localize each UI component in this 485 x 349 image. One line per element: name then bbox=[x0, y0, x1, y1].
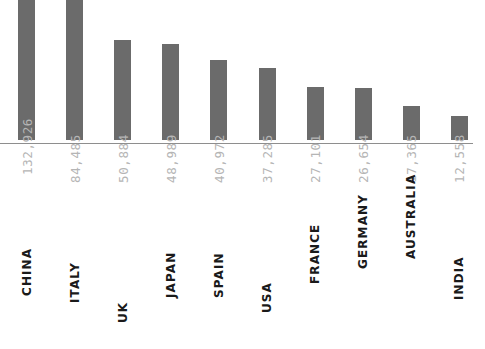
label-column-france: 27,101 FRANCE bbox=[307, 145, 324, 349]
category-label: ITALY bbox=[68, 262, 82, 303]
bar-italy bbox=[66, 0, 83, 140]
bar-uk bbox=[114, 40, 131, 140]
category-label: JAPAN bbox=[164, 251, 178, 297]
bar-japan bbox=[162, 44, 179, 140]
value-label: 12,558 bbox=[452, 134, 467, 183]
label-column-italy: 84,485 ITALY bbox=[66, 145, 83, 349]
bar-germany bbox=[355, 88, 372, 140]
bar-spain bbox=[210, 60, 227, 140]
label-column-china: 132,926 CHINA bbox=[18, 145, 35, 349]
value-label: 40,972 bbox=[211, 134, 226, 183]
value-label: 27,101 bbox=[308, 134, 323, 183]
category-label: UK bbox=[116, 302, 130, 323]
label-column-germany: 26,654 GERMANY bbox=[355, 145, 372, 349]
label-column-australia: 17,365 AUSTRALIA bbox=[403, 145, 420, 349]
category-label: GERMANY bbox=[356, 194, 370, 269]
category-label: AUSTRALIA bbox=[404, 173, 418, 258]
value-label: 50,884 bbox=[115, 134, 130, 183]
label-column-usa: 37,285 USA bbox=[259, 145, 276, 349]
category-label: USA bbox=[260, 282, 274, 313]
category-label: SPAIN bbox=[212, 253, 226, 299]
value-label: 84,485 bbox=[67, 134, 82, 183]
label-column-uk: 50,884 UK bbox=[114, 145, 131, 349]
value-label: 37,285 bbox=[260, 134, 275, 183]
value-label: 26,654 bbox=[356, 134, 371, 183]
bar-france bbox=[307, 87, 324, 140]
bar-chart: 132,926 CHINA 84,485 ITALY 50,884 UK 48,… bbox=[0, 0, 485, 349]
axis-labels: 132,926 CHINA 84,485 ITALY 50,884 UK 48,… bbox=[0, 145, 485, 349]
value-label: 48,989 bbox=[163, 134, 178, 183]
category-label: INDIA bbox=[452, 257, 466, 301]
category-label: CHINA bbox=[20, 248, 34, 296]
bar-usa bbox=[259, 68, 276, 140]
label-column-spain: 40,972 SPAIN bbox=[210, 145, 227, 349]
category-label: FRANCE bbox=[308, 223, 322, 283]
label-column-india: 12,558 INDIA bbox=[451, 145, 468, 349]
value-label: 132,926 bbox=[19, 118, 34, 175]
label-column-japan: 48,989 JAPAN bbox=[162, 145, 179, 349]
plot-area bbox=[0, 0, 485, 145]
